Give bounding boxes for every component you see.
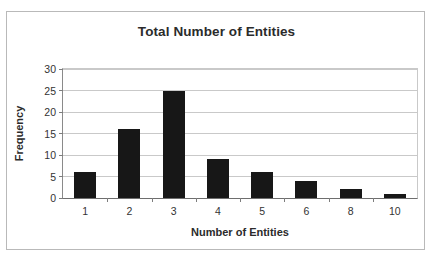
- x-tick-mark: [196, 198, 197, 202]
- y-tick-label: 25: [44, 85, 56, 97]
- y-gridline: [63, 155, 417, 156]
- y-gridline: [63, 69, 417, 70]
- y-tick-label: 5: [50, 171, 56, 183]
- x-tick-label: 5: [259, 205, 265, 217]
- x-tick-label: 1: [82, 205, 88, 217]
- y-tick-label: 30: [44, 63, 56, 75]
- chart-frame: Total Number of Entities 051015202530123…: [6, 11, 425, 250]
- y-axis-title: Frequency: [13, 68, 27, 199]
- bar: [295, 181, 317, 198]
- x-tick-label: 3: [171, 205, 177, 217]
- y-gridline: [63, 176, 417, 177]
- x-tick-label: 8: [348, 205, 354, 217]
- bar: [384, 194, 406, 198]
- bar: [74, 172, 96, 198]
- x-axis-title: Number of Entities: [62, 226, 418, 238]
- y-gridline: [63, 112, 417, 113]
- x-tick-mark: [152, 198, 153, 202]
- y-tick-mark: [59, 90, 63, 91]
- bar: [163, 91, 185, 199]
- x-tick-label: 10: [389, 205, 401, 217]
- y-gridline: [63, 90, 417, 91]
- y-tick-mark: [59, 69, 63, 70]
- y-gridline: [63, 133, 417, 134]
- x-tick-mark: [284, 198, 285, 202]
- x-tick-label: 4: [215, 205, 221, 217]
- bar: [251, 172, 273, 198]
- y-tick-label: 0: [50, 192, 56, 204]
- y-tick-label: 15: [44, 128, 56, 140]
- bar: [340, 189, 362, 198]
- x-tick-mark: [373, 198, 374, 202]
- plot-area: 051015202530123456810: [62, 68, 418, 199]
- y-tick-mark: [59, 155, 63, 156]
- bar: [207, 159, 229, 198]
- x-tick-mark: [107, 198, 108, 202]
- y-tick-mark: [59, 198, 63, 199]
- y-tick-mark: [59, 133, 63, 134]
- bar: [118, 129, 140, 198]
- x-tick-mark: [329, 198, 330, 202]
- y-tick-mark: [59, 112, 63, 113]
- y-tick-label: 10: [44, 149, 56, 161]
- y-tick-label: 20: [44, 106, 56, 118]
- y-tick-mark: [59, 176, 63, 177]
- x-tick-label: 6: [303, 205, 309, 217]
- x-tick-label: 2: [126, 205, 132, 217]
- x-tick-mark: [240, 198, 241, 202]
- chart-title: Total Number of Entities: [7, 24, 425, 39]
